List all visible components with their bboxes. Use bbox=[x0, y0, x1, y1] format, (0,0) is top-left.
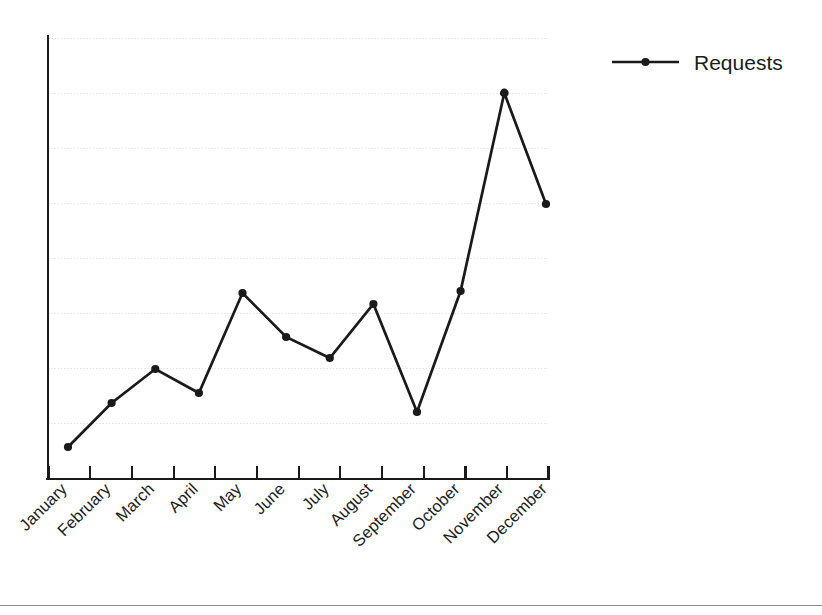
data-point-october bbox=[457, 287, 465, 295]
data-point-august bbox=[369, 300, 377, 308]
data-point-march bbox=[151, 365, 159, 373]
data-point-april bbox=[195, 389, 203, 397]
legend-marker-symbol bbox=[641, 58, 649, 66]
chart-page: January February March April May June Ju… bbox=[0, 0, 822, 615]
requests-line-chart: January February March April May June Ju… bbox=[0, 0, 822, 615]
data-point-december bbox=[542, 200, 550, 208]
data-point-may bbox=[238, 289, 246, 297]
data-point-january bbox=[64, 443, 72, 451]
data-point-july bbox=[326, 354, 334, 362]
data-point-november bbox=[500, 89, 509, 98]
legend-label-requests: Requests bbox=[694, 51, 783, 74]
data-point-june bbox=[282, 333, 290, 341]
data-point-february bbox=[108, 399, 116, 407]
data-point-september bbox=[413, 408, 421, 416]
